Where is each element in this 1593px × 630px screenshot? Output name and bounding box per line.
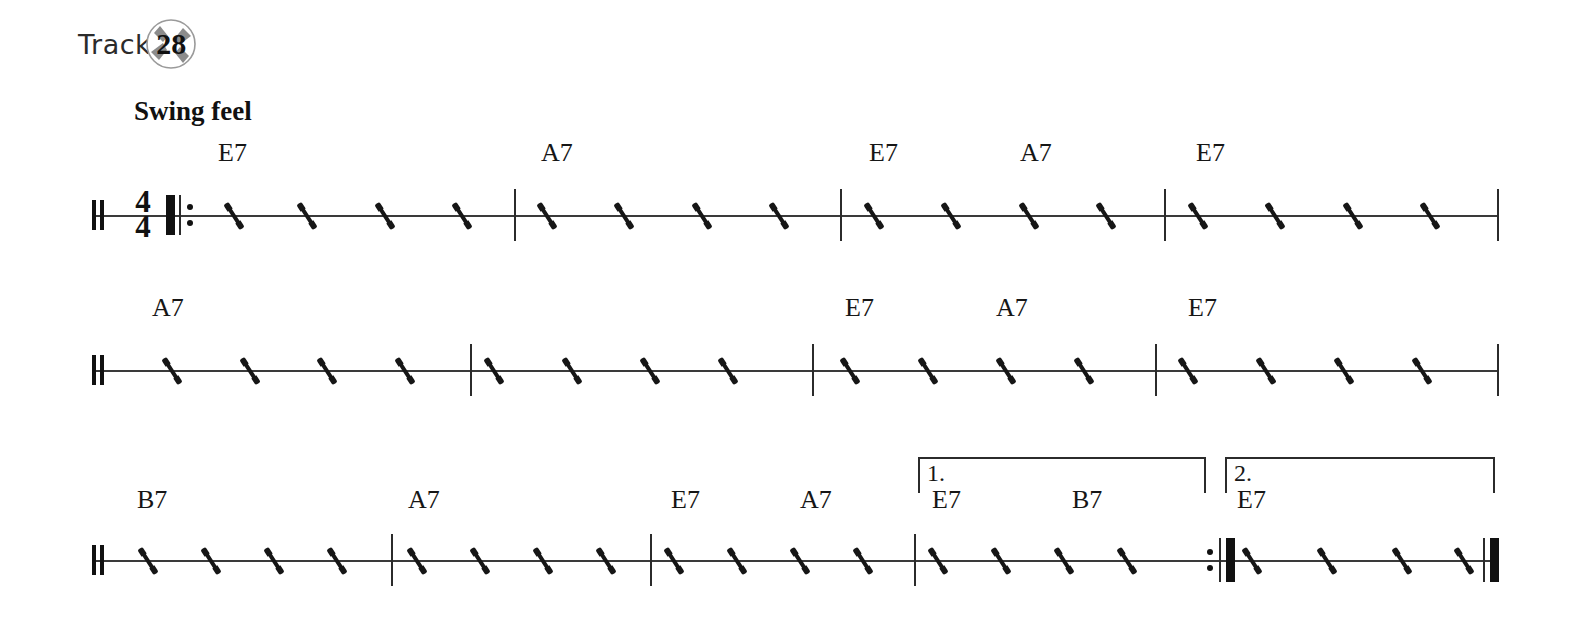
final-thick-barline <box>1490 538 1499 582</box>
volta-top-line <box>918 457 1206 459</box>
chord-symbol: B7 <box>137 487 167 513</box>
chord-symbol: A7 <box>800 487 832 513</box>
staff-line <box>92 560 1497 562</box>
track-number: 28 <box>145 18 197 70</box>
sheet-music-page: Track 28 Swing feel 44E7A7E7A7E7A7E7A7E7… <box>0 0 1593 630</box>
measure-barline <box>914 534 916 586</box>
volta-1: 1. <box>918 457 1206 493</box>
volta-2: 2. <box>1225 457 1495 493</box>
chord-symbol: E7 <box>671 487 700 513</box>
final-thin-barline <box>1483 538 1485 582</box>
volta-number: 1. <box>927 461 945 485</box>
volta-right-hook <box>1493 457 1495 493</box>
chord-symbol: A7 <box>408 487 440 513</box>
repeat-end-thick-barline <box>1226 538 1235 582</box>
repeat-end-thin-barline <box>1219 538 1221 582</box>
system-start-barline <box>92 545 96 575</box>
measure-barline <box>391 534 393 586</box>
repeat-end-dots <box>1207 549 1213 571</box>
volta-left-hook <box>918 457 920 493</box>
volta-right-hook <box>1204 457 1206 493</box>
volta-left-hook <box>1225 457 1227 493</box>
system-3: B7A7E7A7E7B7E7 <box>0 0 1593 630</box>
system-start-barline <box>100 545 104 575</box>
compact-disc-icon: 28 <box>145 18 197 70</box>
volta-top-line <box>1225 457 1495 459</box>
measure-barline <box>650 534 652 586</box>
volta-number: 2. <box>1234 461 1252 485</box>
